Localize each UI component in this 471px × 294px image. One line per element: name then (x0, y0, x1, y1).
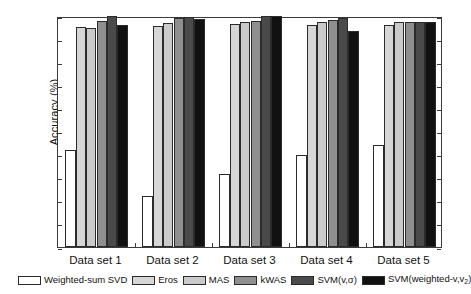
y-tick-mark (58, 179, 62, 180)
x-tick-mark (135, 243, 136, 247)
bar (405, 22, 415, 247)
bar (240, 22, 250, 247)
bar (142, 196, 152, 248)
bar (296, 155, 306, 247)
legend-item-1[interactable]: Weighted-sum SVD (18, 275, 127, 285)
group-label-5: Data set 5 (365, 254, 442, 266)
x-tick-mark (289, 243, 290, 247)
bar (328, 20, 338, 247)
bar (97, 21, 107, 247)
y-tick-mark (58, 133, 62, 134)
y-tick-mark-right (437, 249, 441, 250)
bar (271, 16, 281, 247)
bar (384, 25, 394, 247)
bar (86, 28, 96, 247)
legend-label: kWAS (260, 275, 286, 285)
y-tick-mark (58, 18, 62, 19)
legend-swatch-icon (132, 276, 155, 285)
y-tick-mark-right (437, 110, 441, 111)
chart-legend: Weighted-sum SVDErosMASkWASSVM(v,σ)SVM(w… (18, 272, 450, 288)
group-label-4: Data set 4 (288, 254, 365, 266)
bar (76, 27, 86, 247)
y-tick-mark (58, 225, 62, 226)
bar (348, 31, 358, 247)
legend-item-3[interactable]: MAS (183, 275, 230, 285)
y-tick-mark-right (437, 179, 441, 180)
bar (163, 23, 173, 247)
group-label-2: Data set 2 (134, 254, 211, 266)
y-tick-mark-right (437, 41, 441, 42)
y-tick-mark (58, 64, 62, 65)
y-tick-mark (58, 249, 62, 250)
y-tick-mark-right (437, 133, 441, 134)
legend-label: SVM(v,σ) (317, 275, 356, 285)
legend-label: SVM(weighted-v,v2) (388, 274, 471, 287)
y-tick-mark (58, 156, 62, 157)
y-tick-mark-right (437, 87, 441, 88)
bar (373, 145, 383, 247)
bar (65, 150, 75, 247)
y-tick-mark (58, 41, 62, 42)
legend-swatch-icon (291, 276, 314, 285)
y-tick-mark-right (437, 64, 441, 65)
group-label-3: Data set 3 (211, 254, 288, 266)
bar (317, 22, 327, 247)
y-tick-mark (58, 202, 62, 203)
bar (425, 22, 435, 247)
legend-swatch-icon (234, 276, 257, 285)
bar (394, 22, 404, 247)
bar (230, 24, 240, 247)
legend-item-6[interactable]: SVM(weighted-v,v2) (362, 274, 471, 287)
bar (415, 22, 425, 247)
legend-label: Eros (158, 275, 178, 285)
legend-swatch-icon (183, 276, 206, 285)
legend-item-5[interactable]: SVM(v,σ) (291, 275, 356, 285)
legend-item-2[interactable]: Eros (132, 275, 178, 285)
bar (219, 174, 229, 247)
bar (153, 26, 163, 247)
bar (338, 18, 348, 247)
legend-item-4[interactable]: kWAS (234, 275, 286, 285)
y-tick-mark (58, 110, 62, 111)
y-tick-mark-right (437, 225, 441, 226)
legend-swatch-icon (18, 276, 41, 285)
legend-swatch-icon (362, 276, 385, 285)
legend-label: MAS (209, 275, 230, 285)
bar (174, 18, 184, 247)
plot-area (57, 17, 442, 248)
group-label-1: Data set 1 (57, 254, 134, 266)
legend-label: Weighted-sum SVD (44, 275, 127, 285)
y-tick-mark-right (437, 156, 441, 157)
x-tick-mark (212, 243, 213, 247)
bar (184, 17, 194, 247)
bar (117, 25, 127, 247)
y-tick-mark (58, 87, 62, 88)
bar (194, 19, 204, 247)
y-tick-mark-right (437, 202, 441, 203)
bar (261, 16, 271, 247)
bar (307, 25, 317, 247)
bar (107, 16, 117, 247)
bar (251, 21, 261, 247)
y-tick-mark-right (437, 18, 441, 19)
x-tick-mark (366, 243, 367, 247)
